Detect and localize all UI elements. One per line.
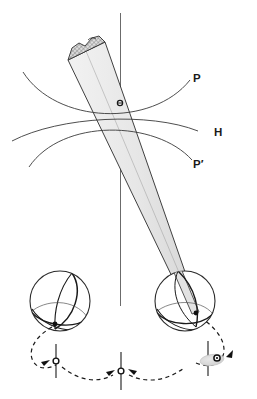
orbit-tick-right	[199, 341, 233, 376]
right-globe	[155, 266, 215, 331]
curve-label-p-prime: P′	[193, 158, 204, 170]
cone-axis-point-marker	[117, 100, 122, 105]
curve-label-p: P	[193, 72, 201, 84]
precession-diagram: P H P′	[0, 0, 257, 399]
orbit-tick-left	[41, 344, 59, 378]
cone-apex-point	[194, 311, 199, 316]
curve-label-h-group: H	[214, 126, 222, 138]
orbit-tick-center	[106, 352, 137, 390]
curve-label-p-group: P	[193, 72, 201, 84]
curve-label-p-prime-group: P′	[193, 158, 204, 170]
curve-label-h: H	[214, 126, 222, 138]
left-globe	[30, 271, 90, 331]
orbit-right-beam-blob	[199, 353, 224, 367]
diagram-canvas: P H P′	[0, 0, 257, 399]
